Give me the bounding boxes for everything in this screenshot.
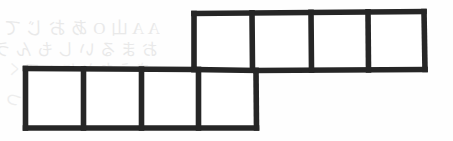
polyomino-grid — [0, 0, 453, 141]
cell-bottom-3 — [141, 68, 198, 128]
cell-bottom-1 — [25, 68, 83, 128]
cell-bottom-2 — [83, 68, 141, 128]
cell-top-3 — [311, 13, 368, 70]
divider-top-2-3 — [311, 12, 312, 70]
polyomino-figure: A A 山 O あ お じ て な お ま る い し も ん う さ え れ … — [0, 0, 453, 141]
cell-top-4 — [368, 13, 424, 70]
edge-bottom-row-right — [256, 71, 257, 129]
shared-edge-top1-bottom4 — [194, 70, 256, 71]
divider-top-3-4 — [368, 12, 369, 70]
cell-top-2 — [252, 13, 311, 70]
cell-bottom-4 — [198, 68, 256, 128]
edge-top-row-right — [424, 12, 425, 70]
cell-top-1 — [194, 13, 252, 70]
edge-top-row-lower-right — [256, 70, 425, 71]
divider-top-1-2 — [252, 13, 253, 70]
edge-bottom-row-upper-left — [26, 69, 195, 70]
